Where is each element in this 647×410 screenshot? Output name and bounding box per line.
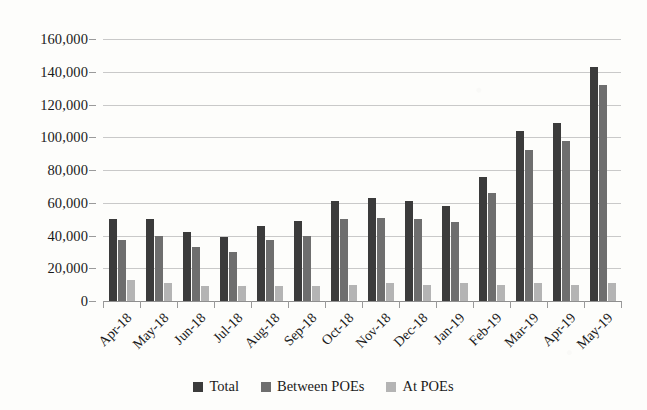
y-axis-tick-mark xyxy=(89,268,96,269)
bar xyxy=(497,285,505,301)
y-axis-tick-mark xyxy=(89,39,96,40)
x-axis-tick-mark xyxy=(510,301,511,308)
bar xyxy=(377,218,385,302)
x-axis-tick-mark xyxy=(436,301,437,308)
y-axis-tick-mark xyxy=(89,137,96,138)
x-axis-tick-mark xyxy=(103,301,104,308)
bar xyxy=(479,177,487,301)
x-axis-ticks xyxy=(103,301,621,308)
bar xyxy=(192,247,200,301)
bar xyxy=(488,193,496,301)
y-axis-tick-label: 60,000 xyxy=(48,194,88,211)
bar xyxy=(534,283,542,301)
bar xyxy=(571,285,579,301)
y-axis-tick-label: 40,000 xyxy=(48,227,88,244)
y-axis-tick-mark xyxy=(89,170,96,171)
bar xyxy=(599,85,607,301)
plot-area xyxy=(103,39,621,301)
bar xyxy=(340,219,348,301)
legend-swatch-icon xyxy=(193,382,203,392)
bar-groups xyxy=(103,39,621,301)
bar-chart: 160,000140,000120,000100,00080,00060,000… xyxy=(0,0,647,410)
legend-label: Between POEs xyxy=(277,378,364,395)
bar-group xyxy=(399,39,436,301)
bar xyxy=(414,219,422,301)
bar-group xyxy=(288,39,325,301)
bar xyxy=(368,198,376,301)
bar xyxy=(229,252,237,301)
bar-group xyxy=(251,39,288,301)
y-axis-tick-label: 100,000 xyxy=(40,129,88,146)
bar xyxy=(146,219,154,301)
bar xyxy=(109,219,117,301)
bar xyxy=(590,67,598,301)
x-axis-tick-mark xyxy=(399,301,400,308)
bar xyxy=(312,286,320,301)
bar-group xyxy=(214,39,251,301)
bar xyxy=(442,206,450,301)
bar xyxy=(275,286,283,301)
x-axis-tick-mark xyxy=(547,301,548,308)
y-axis-tick-label: 20,000 xyxy=(48,260,88,277)
x-axis-tick-mark xyxy=(621,301,622,308)
bar xyxy=(257,226,265,301)
legend-label: At POEs xyxy=(402,378,453,395)
y-axis-tick-mark xyxy=(89,72,96,73)
x-axis-tick-mark xyxy=(177,301,178,308)
x-axis-tick-mark xyxy=(288,301,289,308)
bar xyxy=(553,123,561,301)
bar xyxy=(266,240,274,301)
bar xyxy=(118,240,126,301)
bar-group xyxy=(140,39,177,301)
chart-legend: TotalBetween POEsAt POEs xyxy=(0,378,647,395)
y-axis-tick-mark xyxy=(89,203,96,204)
x-axis-labels: Apr-18May-18Jun-18Jul-18Aug-18Sep-18Oct-… xyxy=(103,308,621,368)
bar-group xyxy=(325,39,362,301)
bar xyxy=(451,222,459,301)
bar-group xyxy=(510,39,547,301)
legend-swatch-icon xyxy=(261,382,271,392)
bar-group xyxy=(584,39,621,301)
x-axis-tick-mark xyxy=(140,301,141,308)
bar-group xyxy=(103,39,140,301)
bar-group xyxy=(362,39,399,301)
legend-item[interactable]: Between POEs xyxy=(261,378,364,395)
legend-item[interactable]: Total xyxy=(193,378,239,395)
bar xyxy=(183,232,191,301)
legend-swatch-icon xyxy=(386,382,396,392)
x-axis-tick-mark xyxy=(473,301,474,308)
bar xyxy=(460,283,468,301)
x-axis-tick-mark xyxy=(325,301,326,308)
y-axis-tick-label: 0 xyxy=(81,293,88,310)
bar xyxy=(405,201,413,301)
legend-label: Total xyxy=(209,378,239,395)
bar xyxy=(127,280,135,301)
bar xyxy=(516,131,524,301)
x-axis-tick-mark xyxy=(584,301,585,308)
bar xyxy=(331,201,339,301)
bar xyxy=(164,283,172,301)
bar xyxy=(155,236,163,302)
bar xyxy=(201,286,209,301)
bar xyxy=(220,237,228,301)
x-axis-tick-mark xyxy=(362,301,363,308)
y-axis-tick-label: 140,000 xyxy=(40,63,88,80)
bar xyxy=(238,286,246,301)
legend-item[interactable]: At POEs xyxy=(386,378,453,395)
y-axis: 160,000140,000120,000100,00080,00060,000… xyxy=(10,39,96,301)
bar xyxy=(562,141,570,301)
y-axis-tick-mark xyxy=(89,236,96,237)
bar xyxy=(525,150,533,301)
y-axis-tick-mark xyxy=(89,105,96,106)
bar-group xyxy=(177,39,214,301)
x-axis-tick-mark xyxy=(251,301,252,308)
bar xyxy=(608,283,616,301)
bar-group xyxy=(473,39,510,301)
y-axis-tick-label: 160,000 xyxy=(40,31,88,48)
bar-group xyxy=(436,39,473,301)
y-axis-tick-label: 80,000 xyxy=(48,162,88,179)
bar xyxy=(386,283,394,301)
bar xyxy=(349,285,357,301)
y-axis-tick-mark xyxy=(89,301,96,302)
bar-group xyxy=(547,39,584,301)
